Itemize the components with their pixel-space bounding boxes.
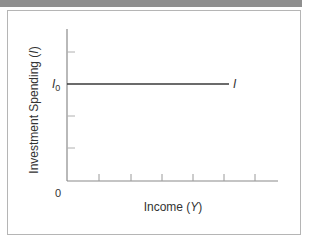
chart: I I0 0 Income (Y) Investment Spending (I…: [0, 0, 313, 250]
x-axis-label: Income (Y): [144, 200, 203, 214]
y-axis-label: Investment Spending (I): [27, 46, 41, 173]
x-ticks: [99, 174, 255, 181]
y-tick-label-I0: I0: [52, 77, 60, 93]
line-label: I: [233, 77, 237, 91]
origin-label: 0: [55, 187, 61, 199]
y-ticks: [67, 52, 75, 148]
